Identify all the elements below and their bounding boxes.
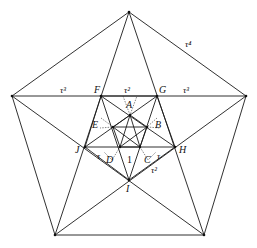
label-small-right: τ (157, 151, 161, 161)
label-outer-side: τ⁴ (185, 39, 191, 49)
label-f: F (93, 84, 101, 95)
outer-pentagon (12, 12, 246, 235)
label-a: A (125, 99, 133, 110)
pentagon-diagram: F G H I J A B C D E τ⁴ τ³ τ³ τ² τ² τ τ 1 (0, 0, 257, 248)
label-right-segment: τ³ (183, 85, 189, 95)
label-j: J (75, 144, 80, 155)
label-center: 1 (127, 154, 132, 165)
label-lower-right: τ² (151, 165, 157, 175)
label-left-segment: τ³ (60, 85, 66, 95)
label-g: G (159, 84, 166, 95)
label-b: B (155, 119, 161, 130)
label-top-inner: τ² (124, 85, 130, 95)
vertex-points (11, 11, 248, 237)
label-c: C (144, 154, 151, 165)
label-h: H (178, 144, 187, 155)
label-d: D (105, 154, 114, 165)
label-e: E (91, 119, 98, 130)
label-i: I (125, 183, 130, 194)
outer-pentagram (12, 12, 246, 235)
